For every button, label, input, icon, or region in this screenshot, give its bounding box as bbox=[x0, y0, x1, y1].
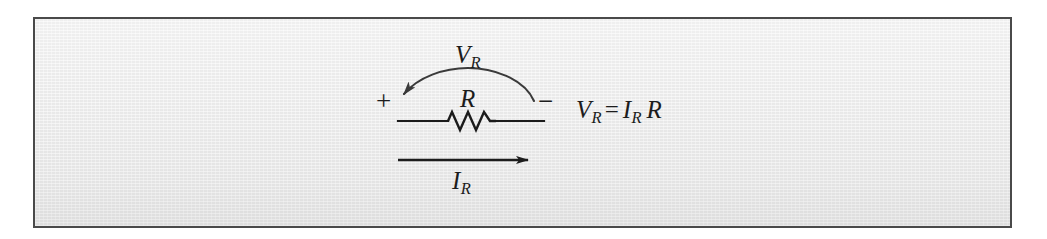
equation-lhs-subscript: R bbox=[592, 108, 602, 127]
voltage-label-symbol: V bbox=[455, 41, 470, 68]
figure-root: VR R IR + − VR=IRR bbox=[0, 0, 1047, 239]
figure-panel bbox=[33, 17, 1012, 228]
voltage-label-subscript: R bbox=[471, 53, 481, 72]
equation-lhs-symbol: V bbox=[576, 96, 591, 123]
panel-texture bbox=[35, 19, 1010, 226]
current-label-subscript: R bbox=[461, 179, 471, 198]
resistance-label-symbol: R bbox=[460, 85, 475, 112]
current-label-ir: IR bbox=[452, 168, 471, 197]
equation-relation-operator: = bbox=[605, 96, 619, 123]
resistance-label-r: R bbox=[460, 86, 475, 111]
ohms-law-equation: VR=IRR bbox=[576, 97, 662, 126]
polarity-minus-sign: − bbox=[538, 88, 553, 115]
equation-rhs-resistance-symbol: R bbox=[647, 96, 662, 123]
equation-rhs-current-symbol: I bbox=[623, 96, 631, 123]
current-label-symbol: I bbox=[452, 167, 460, 194]
equation-rhs-current-subscript: R bbox=[631, 108, 641, 127]
voltage-label-vr: VR bbox=[455, 42, 481, 71]
polarity-plus-sign: + bbox=[376, 88, 391, 115]
